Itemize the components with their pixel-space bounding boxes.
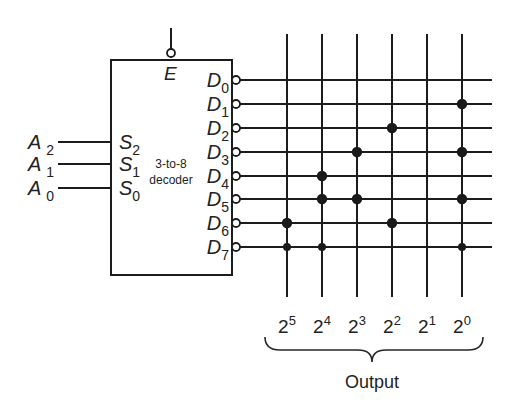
connection-dot [387,218,397,228]
output-inversion-bubble-D3 [232,148,240,156]
output-columns [287,34,462,297]
output-pin-D7: D7 [207,236,229,263]
select-pin-S0: S0 [119,177,140,204]
decoder-outputs: D0D1D2D3D4D5D6D7 [207,69,492,263]
output-inversion-bubble-D2 [232,124,240,132]
output-inversion-bubble-D5 [232,195,240,203]
connection-dot [283,243,291,251]
enable-label: E [164,63,177,84]
output-inversion-bubble-D7 [232,243,240,251]
input-label-A0: A 0 [27,177,54,204]
connection-dot [317,194,327,204]
output-pin-D0: D0 [207,69,229,96]
connection-dot [352,194,362,204]
connection-dot [282,218,292,228]
connection-dot [387,123,397,133]
connection-dot [457,194,467,204]
output-inversion-bubble-D4 [232,172,240,180]
output-label: Output [345,372,399,392]
connection-dots [282,99,467,251]
column-label-2-pow-5: 25 [278,313,296,337]
output-pin-D5: D5 [207,188,229,215]
output-pin-D3: D3 [207,141,229,168]
connection-dot [318,243,326,251]
enable-inversion-bubble [167,49,175,57]
column-label-2-pow-2: 22 [383,313,401,337]
column-label-2-pow-0: 20 [453,313,471,337]
output-pin-D2: D2 [207,117,229,144]
connection-dot [352,147,362,157]
decoder-rom-diagram: E 3-to-8 decoder A 2S2A 1S1A 0S0 D0D1D2D… [0,0,518,409]
output-brace [265,337,483,362]
select-inputs: A 2S2A 1S1A 0S0 [27,131,140,204]
column-label-2-pow-1: 21 [418,313,436,337]
connection-dot [457,99,467,109]
output-inversion-bubble-D1 [232,100,240,108]
connection-dot [458,243,466,251]
connection-dot [317,171,327,181]
output-pin-D6: D6 [207,212,229,239]
output-inversion-bubble-D6 [232,219,240,227]
output-pin-D1: D1 [207,93,229,120]
output-inversion-bubble-D0 [232,76,240,84]
column-weight-labels: 252423222120 [278,313,471,337]
column-label-2-pow-3: 23 [348,313,366,337]
decoder-title-line1: 3-to-8 [155,157,187,171]
decoder-title-line2: decoder [149,173,192,187]
connection-dot [457,147,467,157]
column-label-2-pow-4: 24 [313,313,331,337]
